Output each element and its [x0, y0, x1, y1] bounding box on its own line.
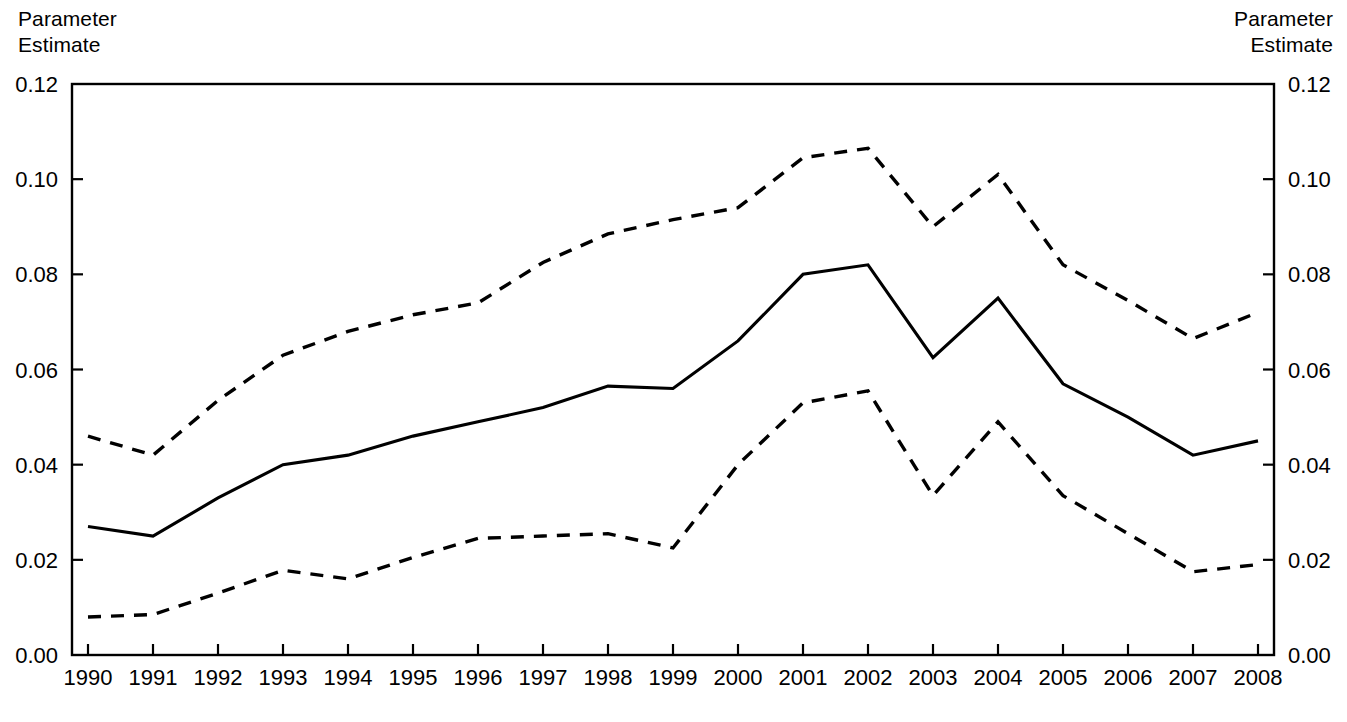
y-axis-left-tick-label: 0.12	[15, 72, 58, 97]
y-axis-right-tick-label: 0.00	[1288, 643, 1331, 668]
y-axis-left-tick-label: 0.04	[15, 453, 58, 478]
series-dashed-line	[88, 148, 1258, 455]
x-axis-tick-label: 1996	[454, 665, 503, 690]
y-axis-right-tick-label: 0.08	[1288, 262, 1331, 287]
x-axis-tick-label: 2003	[909, 665, 958, 690]
y-axis-left-tick-label: 0.00	[15, 643, 58, 668]
y-axis-right-tick-label: 0.02	[1288, 548, 1331, 573]
chart-figure: Parameter Estimate Parameter Estimate 0.…	[0, 0, 1347, 722]
x-axis-tick-label: 1999	[649, 665, 698, 690]
x-axis-tick-label: 1994	[324, 665, 373, 690]
y-axis-right-tick-label: 0.10	[1288, 167, 1331, 192]
x-axis-tick-label: 1998	[584, 665, 633, 690]
x-axis-tick-label: 1995	[389, 665, 438, 690]
y-axis-left-tick-label: 0.08	[15, 262, 58, 287]
x-axis-tick-label: 2001	[779, 665, 828, 690]
x-axis-tick-label: 2002	[844, 665, 893, 690]
y-axis-right-tick-label: 0.12	[1288, 72, 1331, 97]
x-axis-ticks: 1990199119921993199419951996199719981999…	[64, 644, 1283, 690]
x-axis-tick-label: 1993	[259, 665, 308, 690]
line-chart-plot: 0.000.020.040.060.080.100.12 0.000.020.0…	[0, 0, 1347, 722]
y-axis-left-tick-label: 0.02	[15, 548, 58, 573]
x-axis-tick-label: 2000	[714, 665, 763, 690]
series-dashed-line	[88, 391, 1258, 617]
x-axis-tick-label: 1991	[129, 665, 178, 690]
y-axis-right-tick-label: 0.04	[1288, 453, 1331, 478]
x-axis-tick-label: 2004	[974, 665, 1023, 690]
x-axis-tick-label: 1992	[194, 665, 243, 690]
x-axis-tick-label: 1997	[519, 665, 568, 690]
x-axis-tick-label: 2007	[1169, 665, 1218, 690]
x-axis-tick-label: 1990	[64, 665, 113, 690]
y-axis-left-tick-label: 0.06	[15, 358, 58, 383]
plot-frame	[72, 84, 1274, 655]
y-axis-left-tick-label: 0.10	[15, 167, 58, 192]
x-axis-tick-label: 2005	[1039, 665, 1088, 690]
series-solid-line	[88, 265, 1258, 536]
data-series-group	[88, 148, 1258, 617]
y-axis-right-tick-label: 0.06	[1288, 358, 1331, 383]
x-axis-tick-label: 2008	[1234, 665, 1283, 690]
x-axis-tick-label: 2006	[1104, 665, 1153, 690]
